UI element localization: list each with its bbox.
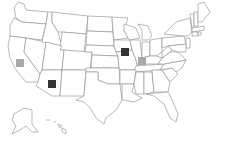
marker-illinois [138,57,146,65]
state-connecticut [192,32,198,36]
state-arkansas [120,70,136,84]
marker-arizona [48,80,56,88]
state-montana [52,12,88,34]
state-maine [198,2,210,22]
state-alaska [12,108,38,134]
state-massachusetts [192,26,204,32]
state-ohio [150,38,162,56]
marker-iowa [121,48,129,56]
us-states-outline [0,0,226,151]
state-new-york [164,18,192,36]
state-new-hampshire [194,12,198,26]
state-wyoming [60,32,86,52]
state-hawaii [46,120,66,134]
state-new-mexico [60,70,86,96]
marker-california [16,59,24,67]
state-south-dakota [86,31,114,46]
state-kansas [91,55,119,68]
state-indiana [142,42,150,58]
state-utah [42,42,64,70]
state-florida [146,92,178,122]
state-mississippi [134,72,144,94]
state-rhode-island [198,32,201,35]
state-north-dakota [87,16,113,32]
state-new-jersey [186,38,190,48]
state-colorado [62,50,92,70]
